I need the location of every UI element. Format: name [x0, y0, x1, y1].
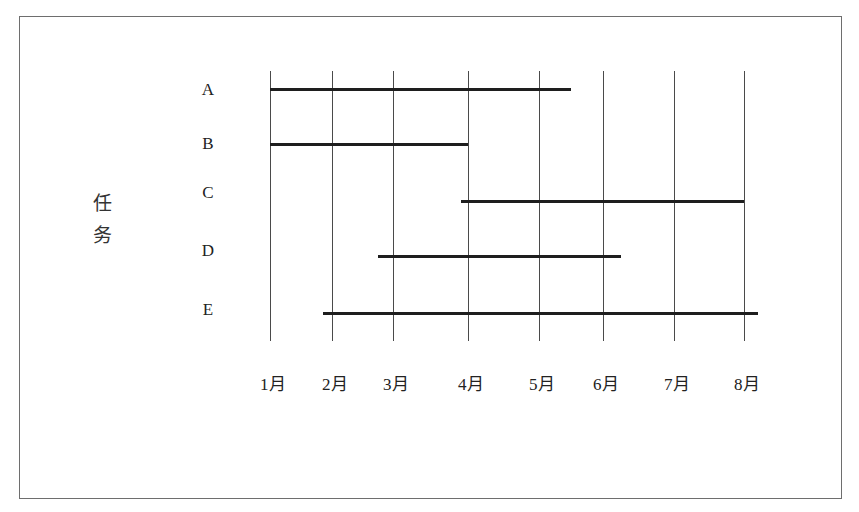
x-tick-label: 2月: [322, 374, 348, 396]
x-tick-label: 4月: [458, 374, 484, 396]
gridline: [270, 71, 271, 341]
task-label-b: B: [198, 134, 218, 154]
y-axis-title: 任 务: [90, 187, 114, 251]
gridline: [393, 71, 394, 341]
gridline: [332, 71, 333, 341]
task-label-e: E: [198, 300, 218, 320]
x-tick-label: 6月: [593, 374, 619, 396]
gridline: [539, 71, 540, 341]
x-tick-label: 8月: [734, 374, 760, 396]
x-tick-label: 5月: [529, 374, 555, 396]
task-bar-e: [323, 312, 758, 315]
x-tick-label: 3月: [383, 374, 409, 396]
x-tick-label: 7月: [664, 374, 690, 396]
task-label-c: C: [198, 183, 218, 203]
task-bar-d: [378, 255, 621, 258]
gridline: [603, 71, 604, 341]
y-axis-title-char: 任: [90, 187, 114, 219]
task-bar-c: [461, 200, 745, 203]
gridline: [674, 71, 675, 341]
task-bar-a: [270, 88, 571, 91]
task-label-d: D: [198, 241, 218, 261]
y-axis-title-char: 务: [90, 219, 114, 251]
x-tick-label: 1月: [260, 374, 286, 396]
task-label-a: A: [198, 80, 218, 100]
gridline: [468, 71, 469, 341]
task-bar-b: [270, 143, 468, 146]
gridline: [744, 71, 745, 341]
